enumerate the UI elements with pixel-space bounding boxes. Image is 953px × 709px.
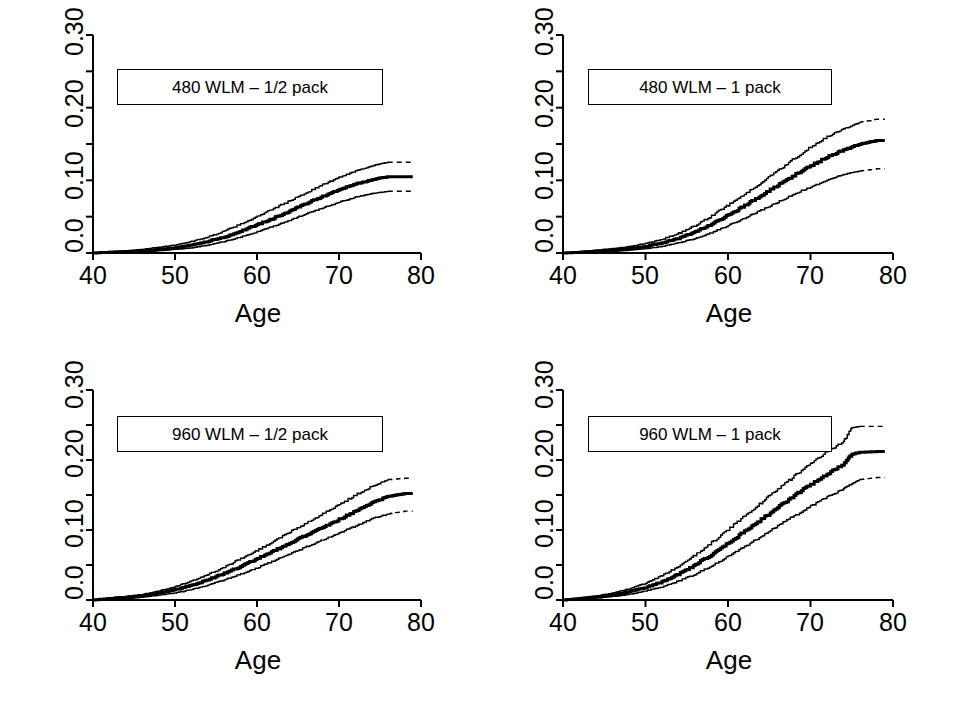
x-tick-label-2: 60 (243, 263, 271, 288)
y-tick-label-1: 0.10 (62, 499, 87, 548)
x-axis-ticks (93, 600, 421, 607)
y-tick-label-0: 0.0 (62, 218, 87, 253)
x-axis-title: Age (706, 647, 752, 673)
y-tick-label-2: 0.20 (62, 429, 87, 478)
x-tick-label-1: 50 (631, 263, 659, 288)
panel-legend-label: 480 WLM – 1/2 pack (172, 79, 328, 96)
x-tick-label-3: 70 (325, 263, 353, 288)
curve-lower-95-ci (563, 171, 860, 253)
x-tick-label-4: 80 (879, 263, 907, 288)
y-tick-label-2: 0.20 (532, 79, 557, 128)
x-axis-ticks (93, 253, 421, 260)
x-tick-label-3: 70 (796, 610, 824, 635)
y-tick-label-3: 0.30 (62, 360, 87, 409)
curve-dashed-upper-95-ci (860, 119, 885, 123)
y-tick-label-1: 0.10 (532, 151, 557, 200)
x-tick-label-2: 60 (243, 610, 271, 635)
panel-legend-box: 480 WLM – 1 pack (588, 69, 832, 105)
curve-dashed-upper-95-ci (388, 478, 413, 480)
panel-legend-box: 960 WLM – 1 pack (588, 416, 832, 452)
x-tick-label-1: 50 (631, 610, 659, 635)
curve-lower-95-ci (563, 480, 860, 600)
x-tick-label-0: 40 (549, 263, 577, 288)
panel-960-half-pack: 0.0 0.10 0.20 0.30 40 50 60 70 80 Age 96… (0, 355, 476, 709)
curves-group (563, 119, 885, 253)
y-tick-label-3: 0.30 (532, 360, 557, 409)
x-tick-label-3: 70 (796, 263, 824, 288)
x-axis-title: Age (706, 300, 752, 326)
curve-dashed-lower-95-ci (860, 169, 885, 172)
x-axis-title: Age (235, 647, 281, 673)
y-tick-label-3: 0.30 (62, 7, 87, 56)
curves-group (563, 426, 885, 600)
panel-legend-label: 480 WLM – 1 pack (639, 79, 781, 96)
panel-legend-box: 480 WLM – 1/2 pack (117, 69, 383, 105)
x-tick-label-4: 80 (879, 610, 907, 635)
panel-480-half-pack: 0.0 0.10 0.20 0.30 40 50 60 70 80 Age 48… (0, 0, 476, 354)
curve-estimate (93, 494, 413, 600)
curve-estimate (93, 177, 413, 253)
panel-960-one-pack: 0.0 0.10 0.20 0.30 40 50 60 70 80 Age 96… (477, 355, 953, 709)
x-tick-label-3: 70 (325, 610, 353, 635)
x-tick-label-0: 40 (549, 610, 577, 635)
x-tick-label-2: 60 (714, 610, 742, 635)
curve-upper-95-ci (93, 480, 388, 600)
curve-dashed-upper-95-ci (388, 162, 413, 163)
y-tick-label-1: 0.10 (62, 151, 87, 200)
x-tick-label-0: 40 (79, 610, 107, 635)
curve-lower-95-ci (93, 192, 388, 253)
y-tick-label-0: 0.0 (62, 565, 87, 600)
figure-canvas: 0.0 0.10 0.20 0.30 40 50 60 70 80 Age 48… (0, 0, 953, 709)
panel-legend-box: 960 WLM – 1/2 pack (117, 416, 383, 452)
y-tick-label-3: 0.30 (532, 7, 557, 56)
x-tick-label-4: 80 (407, 263, 435, 288)
x-tick-label-1: 50 (161, 610, 189, 635)
y-tick-label-2: 0.20 (532, 429, 557, 478)
curve-estimate (563, 140, 885, 253)
panel-legend-label: 960 WLM – 1 pack (639, 426, 781, 443)
panel-legend-label: 960 WLM – 1/2 pack (172, 426, 328, 443)
curve-upper-95-ci (93, 163, 388, 253)
curve-upper-95-ci (563, 427, 860, 600)
curve-dashed-lower-95-ci (860, 478, 885, 481)
x-axis-ticks (563, 253, 893, 260)
y-tick-label-0: 0.0 (532, 218, 557, 253)
x-tick-label-1: 50 (161, 263, 189, 288)
curves-group (93, 162, 413, 253)
curve-dashed-lower-95-ci (388, 511, 413, 514)
curves-group (93, 478, 413, 600)
y-tick-label-2: 0.20 (62, 79, 87, 128)
curve-estimate (563, 452, 885, 600)
x-tick-label-0: 40 (79, 263, 107, 288)
x-tick-label-4: 80 (407, 610, 435, 635)
y-tick-label-0: 0.0 (532, 565, 557, 600)
y-tick-label-1: 0.10 (532, 499, 557, 548)
x-axis-title: Age (235, 300, 281, 326)
x-tick-label-2: 60 (714, 263, 742, 288)
panel-480-one-pack: 0.0 0.10 0.20 0.30 40 50 60 70 80 Age 48… (477, 0, 953, 354)
curve-lower-95-ci (93, 514, 388, 600)
x-axis-ticks (563, 600, 893, 607)
